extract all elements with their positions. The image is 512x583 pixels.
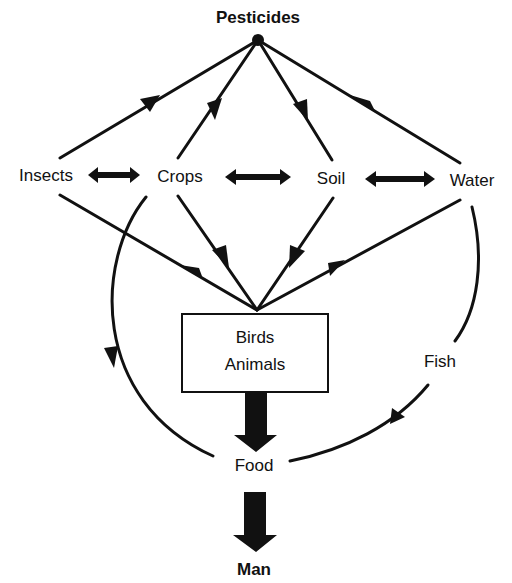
node-water: Water xyxy=(450,172,495,189)
diagram-canvas xyxy=(0,0,512,583)
edge-insects-birds xyxy=(60,195,257,310)
node-pesticides: Pesticides xyxy=(216,9,300,26)
edge-pesticides-crops xyxy=(178,40,258,158)
arrowhead-icon xyxy=(207,98,222,120)
arrowhead-icon xyxy=(289,245,305,268)
edge-pesticides-insects xyxy=(60,40,258,158)
node-crops: Crops xyxy=(157,168,202,185)
edge-fish-food xyxy=(290,385,428,461)
node-animals: Animals xyxy=(183,356,327,373)
double-arrow-insects-crops xyxy=(88,167,140,183)
pesticides-origin-dot xyxy=(252,34,264,46)
edge-water-fish xyxy=(455,207,478,341)
big-arrow-food-man xyxy=(233,492,277,552)
double-arrow-soil-water xyxy=(365,171,435,187)
double-arrow-crops-soil xyxy=(225,169,291,185)
edge-pesticides-soil xyxy=(258,40,332,160)
edge-water-birds xyxy=(257,200,460,310)
node-birds-animals-box: Birds Animals xyxy=(181,313,329,393)
big-arrow-birds-food xyxy=(234,393,277,452)
node-food: Food xyxy=(235,457,274,474)
node-soil: Soil xyxy=(317,170,345,187)
arrowhead-icon xyxy=(104,346,118,368)
node-birds: Birds xyxy=(183,329,327,346)
node-fish: Fish xyxy=(424,353,456,370)
node-man: Man xyxy=(237,561,271,578)
arrowhead-icon xyxy=(328,260,345,276)
edge-pesticides-water xyxy=(258,40,460,163)
node-insects: Insects xyxy=(19,167,73,184)
